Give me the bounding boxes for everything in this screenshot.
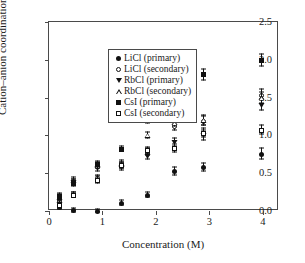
data-point — [73, 183, 74, 184]
filled-circle-marker — [259, 152, 264, 157]
filled-triangle-down-marker — [259, 103, 265, 108]
data-point — [73, 195, 74, 196]
filled-square-marker — [119, 147, 124, 152]
data-point — [121, 165, 122, 166]
data-point — [73, 210, 74, 211]
filled-square-marker — [259, 58, 264, 63]
data-point — [261, 60, 262, 61]
data-point — [59, 205, 60, 206]
open-triangle-up-icon — [116, 89, 122, 94]
open-square-marker — [172, 146, 177, 151]
data-point — [261, 105, 262, 106]
y-tick-label: 2.5 — [259, 17, 272, 28]
data-point — [97, 180, 98, 181]
legend-item-4[interactable]: CsI (primary) — [113, 97, 191, 108]
data-point — [203, 120, 204, 121]
filled-square-marker — [57, 194, 62, 199]
filled-circle-marker — [172, 169, 177, 174]
legend-marker — [113, 89, 124, 94]
x-tick — [102, 211, 103, 215]
legend-item-2[interactable]: RbCl (primary) — [113, 75, 191, 86]
filled-circle-marker — [201, 165, 206, 170]
data-point — [174, 171, 175, 172]
legend-label: RbCl (secondary) — [124, 87, 191, 97]
data-point — [121, 149, 122, 150]
data-point — [121, 203, 122, 204]
data-point — [203, 133, 204, 134]
y-tick — [45, 60, 49, 61]
y-tick — [45, 173, 49, 174]
data-point — [147, 150, 148, 151]
x-tick-label: 2 — [153, 217, 158, 228]
legend-marker — [113, 78, 124, 83]
x-tick-label: 0 — [46, 217, 51, 228]
open-triangle-up-marker — [200, 118, 206, 123]
data-point — [261, 154, 262, 155]
open-square-marker — [145, 148, 150, 153]
filled-square-marker — [201, 72, 206, 77]
filled-triangle-down-marker — [145, 154, 151, 159]
open-square-marker — [119, 163, 124, 168]
data-point — [147, 195, 148, 196]
open-square-marker — [259, 128, 264, 133]
legend-label: LiCl (primary) — [124, 54, 180, 64]
filled-square-marker — [95, 162, 100, 167]
legend-label: RbCl (primary) — [124, 76, 183, 86]
y-tick — [45, 22, 49, 23]
data-point — [147, 156, 148, 157]
data-point — [59, 196, 60, 197]
filled-circle-marker — [71, 208, 76, 213]
legend-label: CsI (secondary) — [124, 109, 184, 119]
y-tick — [45, 135, 49, 136]
data-point — [147, 135, 148, 136]
open-square-marker — [201, 131, 206, 136]
figure: Cation–anion coordination number Concent… — [0, 0, 305, 263]
x-tick-label: 1 — [100, 217, 105, 228]
open-square-icon — [116, 111, 121, 116]
y-tick — [45, 98, 49, 99]
legend-marker — [113, 111, 124, 116]
legend-label: CsI (primary) — [124, 98, 176, 108]
legend-item-0[interactable]: LiCl (primary) — [113, 53, 191, 64]
open-square-marker — [95, 178, 100, 183]
x-axis-title: Concentration (M) — [48, 238, 278, 250]
x-tick — [209, 211, 210, 215]
filled-circle-marker — [145, 193, 150, 198]
open-square-marker — [57, 203, 62, 208]
legend-item-3[interactable]: RbCl (secondary) — [113, 86, 191, 97]
data-point — [203, 167, 204, 168]
x-tick-label: 4 — [260, 217, 265, 228]
x-tick — [49, 211, 50, 215]
filled-circle-marker — [119, 201, 124, 206]
data-point — [174, 148, 175, 149]
x-tick — [156, 211, 157, 215]
legend: LiCl (primary)LiCl (secondary)RbCl (prim… — [108, 49, 197, 123]
legend-label: LiCl (secondary) — [124, 65, 189, 75]
y-tick-label: 0.0 — [259, 206, 272, 217]
data-point — [261, 130, 262, 131]
y-axis-title: Cation–anion coordination number — [0, 0, 8, 115]
data-point — [261, 97, 262, 98]
legend-marker — [113, 56, 124, 61]
filled-circle-marker — [95, 209, 100, 214]
filled-square-marker — [71, 181, 76, 186]
open-square-marker — [71, 193, 76, 198]
filled-square-icon — [116, 100, 121, 105]
legend-item-1[interactable]: LiCl (secondary) — [113, 64, 191, 75]
legend-marker — [113, 100, 124, 105]
data-point — [97, 211, 98, 212]
filled-triangle-down-icon — [116, 78, 122, 83]
legend-item-5[interactable]: CsI (secondary) — [113, 108, 191, 119]
y-tick-label: 0.5 — [259, 168, 272, 179]
plot-area: 0.00.51.01.52.02.5 01234 LiCl (primary)L… — [48, 21, 278, 210]
data-point — [203, 74, 204, 75]
x-tick — [263, 211, 264, 215]
open-circle-icon — [116, 67, 121, 72]
x-tick-label: 3 — [207, 217, 212, 228]
open-triangle-up-marker — [259, 95, 265, 100]
filled-circle-icon — [116, 56, 121, 61]
open-triangle-up-marker — [145, 133, 151, 138]
legend-marker — [113, 67, 124, 72]
data-point — [97, 164, 98, 165]
